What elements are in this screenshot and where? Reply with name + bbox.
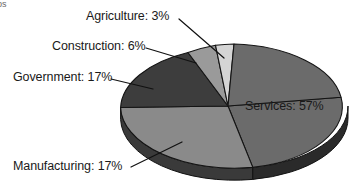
slice-label-agriculture: Agriculture: 3% (86, 10, 169, 23)
slice-label-government: Government: 17% (13, 71, 112, 84)
slice-label-services: Services: 57% (245, 100, 324, 113)
pie-chart-figure: ps (0, 0, 358, 189)
slice-services-upper (228, 44, 341, 106)
slice-label-construction: Construction: 6% (52, 40, 146, 53)
slice-label-manufacturing: Manufacturing: 17% (13, 160, 122, 173)
